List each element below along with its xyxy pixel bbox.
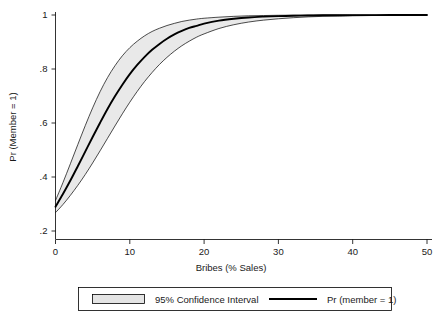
x-axis-tick-label: 0: [53, 246, 58, 257]
y-axis-title: Pr (Member = 1): [7, 92, 18, 161]
x-axis-title: Bribes (% Sales): [196, 262, 267, 273]
x-axis-tick-label: 20: [199, 246, 210, 257]
y-axis-tick-label: 1: [42, 9, 47, 20]
x-axis-tick-label: 50: [422, 246, 433, 257]
x-axis-tick-label: 10: [125, 246, 136, 257]
probability-curve-chart: .2.4.6.81 Pr (Member = 1) 01020304050 Br…: [0, 0, 440, 317]
y-axis: .2.4.6.81 Pr (Member = 1): [7, 9, 56, 239]
confidence-interval-band: [56, 15, 428, 213]
legend-label-confidence-interval: 95% Confidence Interval: [155, 294, 259, 305]
plot-area: [56, 15, 428, 213]
y-axis-tick-label: .4: [40, 171, 48, 182]
chart-legend: 95% Confidence Interval Pr (member = 1): [79, 288, 397, 311]
legend-swatch-confidence-interval: [93, 295, 145, 304]
x-axis: 01020304050 Bribes (% Sales): [53, 240, 432, 274]
y-axis-tick-label: .6: [40, 117, 48, 128]
y-axis-tick-label: .8: [40, 63, 48, 74]
chart-container: .2.4.6.81 Pr (Member = 1) 01020304050 Br…: [0, 0, 440, 317]
x-axis-tick-label: 30: [273, 246, 284, 257]
legend-label-prediction: Pr (member = 1): [327, 294, 396, 305]
y-axis-tick-label: .2: [40, 225, 48, 236]
x-axis-tick-label: 40: [347, 246, 358, 257]
x-axis-ticks: 01020304050: [53, 240, 432, 258]
y-axis-ticks: .2.4.6.81: [40, 9, 56, 236]
